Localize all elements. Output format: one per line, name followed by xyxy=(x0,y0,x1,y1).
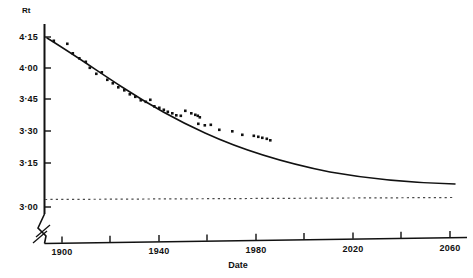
x-axis-title: Date xyxy=(228,260,248,270)
data-point-markers xyxy=(53,40,272,142)
y-tick-label-4-00: 4·00 xyxy=(0,63,38,73)
x-tick-label-2020: 2020 xyxy=(343,244,364,254)
y-tick-label-4-15: 4·15 xyxy=(0,32,38,42)
fitted-curve-line xyxy=(47,38,455,184)
chart-plot-area xyxy=(0,0,473,278)
y-tick-label-3-45: 3·45 xyxy=(0,94,38,104)
y-tick-label-3-30: 3·30 xyxy=(0,126,38,136)
x-tick-label-1900: 1900 xyxy=(52,247,73,257)
asymptote-dashed-line xyxy=(45,198,455,200)
y-axis-title: Rt xyxy=(22,6,30,15)
axes-group xyxy=(33,24,467,244)
y-tick-label-3-00: 3·00 xyxy=(0,202,38,212)
y-tick-label-3-15: 3·15 xyxy=(0,158,38,168)
x-tick-label-1980: 1980 xyxy=(246,245,267,255)
x-tick-label-2060: 2060 xyxy=(440,243,461,253)
x-tick-label-1940: 1940 xyxy=(149,246,170,256)
chart-figure: Rt 4·15 4·00 3·45 3·30 3·15 3·00 1900 19… xyxy=(0,0,473,278)
